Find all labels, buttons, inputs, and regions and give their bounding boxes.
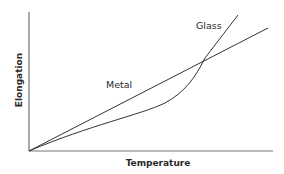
x-axis-label: Temperature: [126, 158, 191, 168]
glass-label: Glass: [196, 20, 222, 31]
metal-line: [29, 28, 268, 151]
y-axis-label: Elongation: [14, 53, 24, 107]
glass-curve: [29, 15, 238, 151]
metal-label: Metal: [106, 79, 132, 90]
diagram: Metal Glass Temperature Elongation: [0, 0, 284, 174]
